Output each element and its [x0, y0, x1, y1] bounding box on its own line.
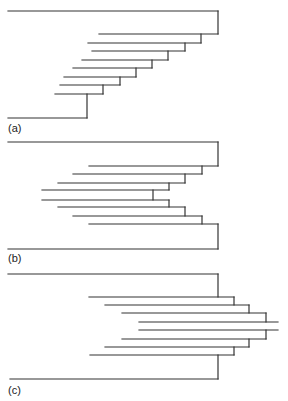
panel-label-b: (b)	[8, 252, 21, 264]
tree-panel-b	[8, 142, 218, 249]
panel-label-c: (c)	[8, 384, 21, 396]
panel-label-a: (a)	[8, 122, 21, 134]
tree-panel-c	[8, 274, 278, 379]
tree-panel-a	[8, 11, 218, 118]
tree-figure	[0, 0, 288, 401]
